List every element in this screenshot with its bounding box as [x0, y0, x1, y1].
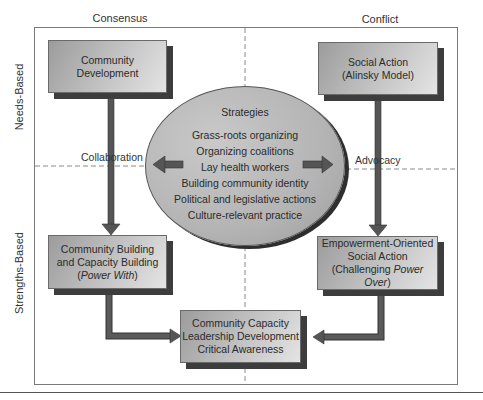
box-community-building: Community Building and Capacity Building… — [48, 235, 167, 289]
box-line: Community Building — [61, 243, 154, 256]
box-line: (Power With) — [77, 269, 138, 282]
label-collaboration: Collaboration — [81, 151, 143, 163]
box-line: Social Action — [347, 250, 407, 263]
arrow-left-icon — [153, 156, 183, 173]
box-line: Community Capacity — [192, 317, 289, 330]
box-line: and Capacity Building — [57, 256, 159, 269]
box-line: Leadership Development — [182, 330, 299, 343]
box-line: (Challenging Power Over) — [318, 263, 437, 289]
label-advocacy: Advocacy — [355, 154, 401, 166]
arrow-right-icon — [303, 156, 333, 173]
italic-term: Power With — [81, 269, 135, 281]
box-line: Critical Awareness — [197, 343, 283, 356]
box-community-capacity: Community Capacity Leadership Developmen… — [180, 310, 301, 363]
box-empowerment-oriented: Empowerment-Oriented Social Action (Chal… — [317, 236, 438, 290]
box-line: Empowerment-Oriented — [322, 237, 433, 250]
